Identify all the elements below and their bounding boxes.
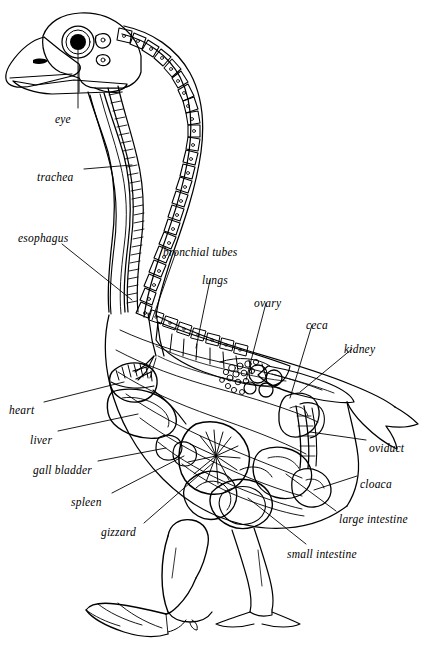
anatomy-illustration [0, 0, 421, 648]
label-small-intestine: small intestine [287, 549, 357, 561]
body-ventral [105, 315, 347, 528]
label-liver: liver [30, 435, 52, 447]
heart [110, 363, 158, 402]
label-kidney: kidney [344, 344, 375, 356]
label-ovary: ovary [254, 298, 281, 310]
neck-ventral-inner [104, 93, 130, 312]
eye-pupil [70, 34, 86, 50]
nostril [33, 59, 48, 64]
label-heart: heart [9, 405, 34, 417]
cervical-vertebrae [117, 28, 200, 318]
leader-cloaca [314, 476, 357, 490]
leader-lines [44, 50, 366, 544]
gall-bladder [156, 435, 182, 460]
goose-anatomy-figure: eye trachea esophagus bronchial tubes lu… [0, 0, 421, 648]
leader-ceca [290, 325, 312, 398]
label-bronchial-tubes: bronchial tubes [163, 247, 237, 259]
label-cloaca: cloaca [360, 479, 392, 491]
leader-gall-bladder [98, 448, 166, 461]
small-intestine [184, 467, 273, 529]
label-spleen: spleen [71, 497, 102, 509]
label-gizzard: gizzard [101, 527, 136, 539]
head-group [6, 13, 141, 94]
neck-outline [88, 26, 203, 317]
leader-trachea [84, 165, 132, 169]
label-ceca: ceca [306, 320, 328, 332]
leader-oviduct [310, 432, 366, 440]
label-esophagus: esophagus [18, 233, 68, 245]
large-intestine [253, 447, 311, 498]
label-large-intestine: large intestine [339, 514, 408, 526]
label-oviduct: oviduct [369, 443, 404, 455]
label-eye: eye [55, 114, 71, 126]
label-gall-bladder: gall bladder [33, 465, 92, 477]
neck-ventral-outer [88, 92, 114, 312]
label-trachea: trachea [37, 172, 74, 184]
label-lungs: lungs [202, 275, 228, 287]
